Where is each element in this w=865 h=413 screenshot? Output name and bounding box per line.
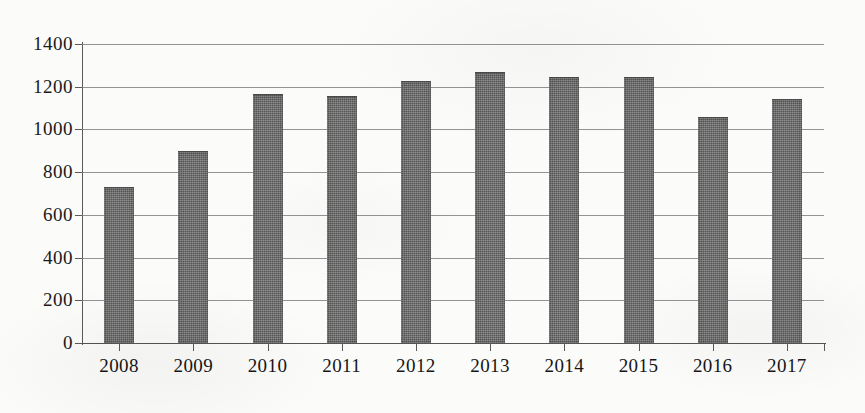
- x-axis-tick-label-2008: 2008: [99, 355, 139, 377]
- y-axis-tick-label: 1000: [33, 118, 73, 140]
- bar-2011: [327, 96, 357, 343]
- x-axis-tick-label-2015: 2015: [619, 355, 659, 377]
- y-axis-tick-mark: [75, 300, 82, 301]
- bar-2008: [104, 187, 134, 343]
- x-axis-tick-mark: [193, 343, 194, 351]
- y-axis-tick-mark: [75, 215, 82, 216]
- y-axis-tick-label: 800: [43, 161, 73, 183]
- y-axis-tick-label: 1400: [33, 33, 73, 55]
- x-axis-tick-mark: [342, 343, 343, 351]
- y-axis-tick-mark: [75, 343, 82, 344]
- y-axis-tick-labels: 0200400600800100012001400: [0, 44, 73, 343]
- bar-2009: [178, 151, 208, 343]
- x-axis-tick-labels: 2008200920102011201220132014201520162017: [82, 355, 824, 389]
- y-axis-tick-mark: [75, 87, 82, 88]
- bar-2014: [549, 77, 579, 343]
- y-axis-tick-mark: [75, 258, 82, 259]
- y-axis-tick-label: 0: [63, 332, 73, 354]
- bar-2015: [624, 77, 654, 343]
- y-axis-tick-label: 200: [43, 289, 73, 311]
- x-axis-tick-label-2014: 2014: [544, 355, 584, 377]
- x-axis-tick-mark: [639, 343, 640, 351]
- y-axis-tick-label: 400: [43, 247, 73, 269]
- gridline: [82, 44, 824, 45]
- x-axis-tick-label-2010: 2010: [248, 355, 288, 377]
- x-axis-tick-label-2016: 2016: [693, 355, 733, 377]
- gridline: [82, 87, 824, 88]
- y-axis-tick-mark: [75, 44, 82, 45]
- y-axis-tick-label: 600: [43, 204, 73, 226]
- y-axis-tick-label: 1200: [33, 76, 73, 98]
- x-axis-end-tick-mark: [824, 343, 825, 351]
- x-axis-tick-mark: [119, 343, 120, 351]
- x-axis-tick-label-2017: 2017: [767, 355, 807, 377]
- bar-2016: [698, 117, 728, 343]
- bar-chart: 0200400600800100012001400 20082009201020…: [0, 0, 865, 413]
- x-axis-tick-mark: [416, 343, 417, 351]
- x-axis-tick-mark: [268, 343, 269, 351]
- bar-2013: [475, 72, 505, 343]
- x-axis-tick-label-2009: 2009: [173, 355, 213, 377]
- x-axis-tick-mark: [490, 343, 491, 351]
- y-axis-tick-mark: [75, 172, 82, 173]
- bar-2010: [253, 94, 283, 343]
- x-axis-tick-label-2012: 2012: [396, 355, 436, 377]
- x-axis-tick-label-2013: 2013: [470, 355, 510, 377]
- bar-2012: [401, 81, 431, 343]
- x-axis-tick-label-2011: 2011: [322, 355, 361, 377]
- y-axis-tick-mark: [75, 129, 82, 130]
- x-axis-tick-mark: [713, 343, 714, 351]
- x-axis-tick-mark: [564, 343, 565, 351]
- bar-2017: [772, 99, 802, 343]
- plot-area: [82, 44, 824, 343]
- x-axis-tick-mark: [787, 343, 788, 351]
